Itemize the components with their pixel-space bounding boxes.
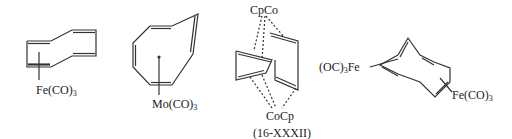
mo-co3-label: Mo(CO)3 [152,98,197,112]
structure-3-tub [236,16,298,108]
cocp-bottom-label: CoCp [266,110,294,122]
oc3-fe-left-label: (OC)3Fe [319,61,360,75]
structure-2-ring [133,14,198,95]
cpco-top-label: CpCo [250,4,278,16]
structure-1-ring [27,30,96,80]
structure-4-ring [370,38,452,97]
chemical-structures-canvas [0,0,512,139]
compound-caption: (16-XXXII) [253,127,311,139]
fe-co3-label-1: Fe(CO)3 [36,84,77,98]
fe-co3-right-label: Fe(CO)3 [452,89,493,103]
